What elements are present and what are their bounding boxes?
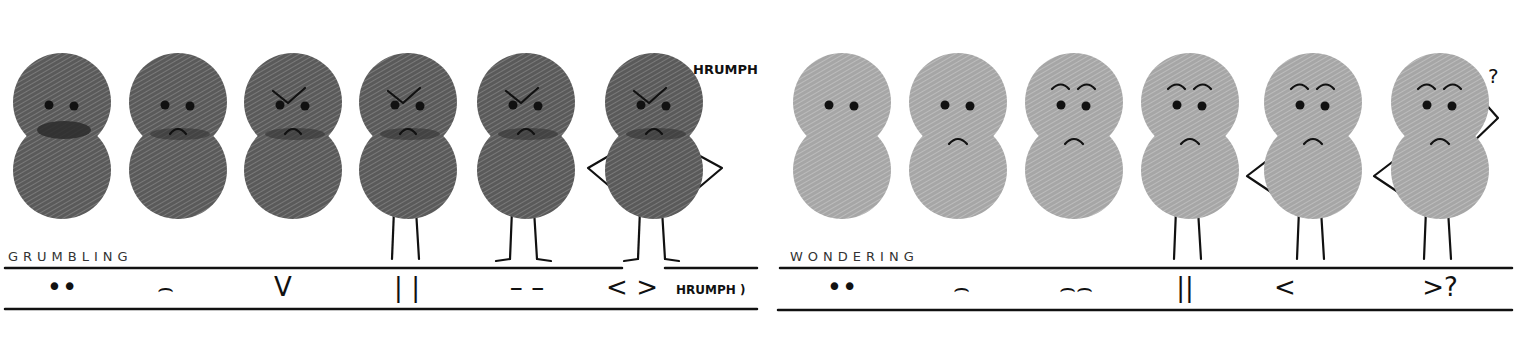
legend-symbol: < > (606, 272, 658, 302)
legend-symbol: < (1274, 272, 1296, 302)
grumbling-figure (129, 53, 227, 219)
head-blob (1141, 53, 1239, 151)
grumbling-figure (13, 53, 111, 219)
legend-symbol: | | (394, 272, 420, 302)
wondering-figure (793, 53, 891, 219)
head-blob (909, 53, 1007, 151)
grumbling-title: GRUMBLING (8, 249, 133, 264)
question-speech: ? (1488, 64, 1499, 88)
legend-symbol: ⌢⌢ (1059, 272, 1093, 303)
wondering-rules (778, 268, 1512, 310)
wondering-figure (1141, 53, 1239, 259)
legend-symbol: •• (47, 272, 78, 302)
legend-symbol: || (1176, 272, 1194, 302)
head-blob (793, 53, 891, 151)
head-blob (1391, 53, 1489, 151)
legend-symbol: •• (827, 272, 858, 302)
legend-symbol: ⌢ (953, 272, 970, 303)
wondering-figure (1374, 53, 1498, 259)
head-blob (1025, 53, 1123, 151)
legend-symbol: – – (510, 272, 544, 302)
grumbling-figure (359, 53, 457, 259)
wondering-figure (909, 53, 1007, 219)
grumbling-legend-note: HRUMPH ) (676, 283, 745, 297)
legend-symbol: >? (1422, 272, 1458, 302)
figures-layer (13, 53, 1498, 261)
hrumph-speech: HRUMPH (693, 62, 758, 77)
grumbling-figure (588, 53, 722, 261)
legend-symbol: ⌢ (157, 272, 174, 303)
wondering-figure (1247, 53, 1362, 259)
wondering-title: WONDERING (790, 249, 919, 264)
grumbling-figure (477, 53, 575, 261)
legend-symbol: V (274, 272, 292, 302)
grumbling-figure (244, 53, 342, 219)
head-blob (1264, 53, 1362, 151)
wondering-figure (1025, 53, 1123, 219)
